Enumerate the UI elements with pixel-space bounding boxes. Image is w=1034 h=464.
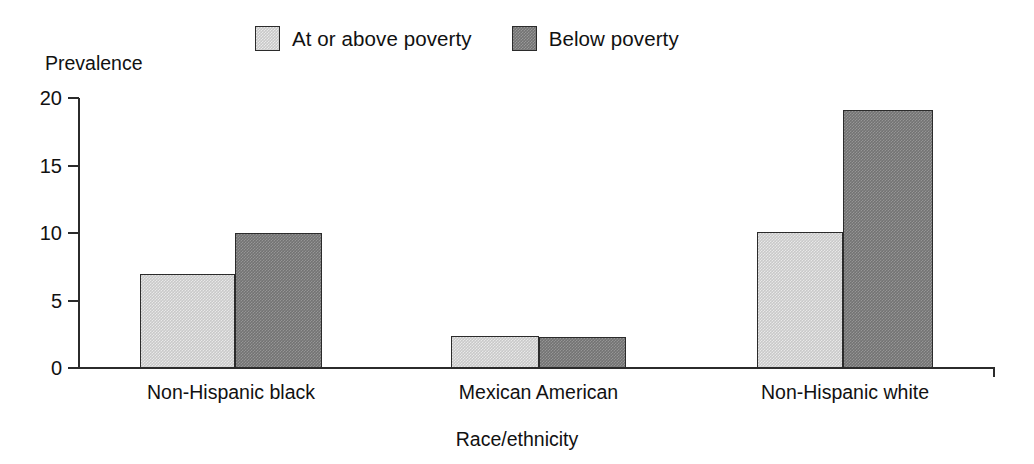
y-axis-tick-label-20: 20 [22,87,62,110]
y-axis-tick-label-5: 5 [22,289,62,312]
bar-chart: At or above poverty Below poverty Preval… [0,0,1034,464]
x-axis-category-label-2: Mexican American [459,381,618,404]
bar-mexican-american-below-poverty [539,337,626,368]
y-axis-tick-label-10: 10 [22,222,62,245]
bar-non-hispanic-white-at-or-above-poverty [757,232,843,368]
bar-non-hispanic-black-at-or-above-poverty [140,274,235,369]
y-axis-tick-0 [68,367,79,369]
x-axis-end-tick [993,367,995,377]
x-axis-category-label-3: Non-Hispanic white [761,381,929,404]
y-axis-tick-5 [68,300,79,302]
y-axis-tick-label-0: 0 [22,357,62,380]
x-axis-title: Race/ethnicity [0,428,1034,451]
y-axis-tick-20 [68,97,79,99]
plot-area: 05101520 Non-Hispanic blackMexican Ameri… [0,0,1034,464]
y-axis-tick-10 [68,232,79,234]
y-axis-tick-label-15: 15 [22,154,62,177]
bar-mexican-american-at-or-above-poverty [451,336,539,368]
x-axis-category-label-1: Non-Hispanic black [147,381,315,404]
bar-non-hispanic-white-below-poverty [843,110,933,368]
bar-non-hispanic-black-below-poverty [235,233,322,368]
y-axis-tick-15 [68,165,79,167]
